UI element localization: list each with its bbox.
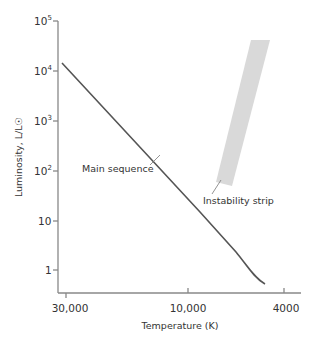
- svg-text:102: 102: [34, 164, 52, 177]
- main-sequence-label: Main sequence: [82, 163, 154, 174]
- x-axis-title: Temperature (K): [141, 320, 219, 331]
- x-axis: [58, 288, 301, 298]
- svg-text:30,000: 30,000: [52, 302, 89, 314]
- x-tick-labels: 30,000 10,000 4000: [52, 302, 300, 314]
- svg-text:4000: 4000: [273, 302, 300, 314]
- instability-strip-label: Instability strip: [203, 195, 274, 206]
- svg-text:104: 104: [34, 64, 52, 77]
- svg-text:10,000: 10,000: [170, 302, 207, 314]
- svg-text:10: 10: [38, 215, 51, 227]
- svg-text:103: 103: [34, 114, 52, 127]
- y-axis: [53, 21, 58, 293]
- svg-text:105: 105: [34, 14, 52, 27]
- y-tick-labels: 105 104 103 102 10 1: [34, 14, 52, 276]
- instability-strip-region: [216, 40, 270, 186]
- y-axis-title: Luminosity, L/L☉: [13, 117, 24, 197]
- svg-text:1: 1: [45, 264, 52, 276]
- hr-diagram-chart: 105 104 103 102 10 1 30,000 10,000 4000 …: [0, 0, 316, 344]
